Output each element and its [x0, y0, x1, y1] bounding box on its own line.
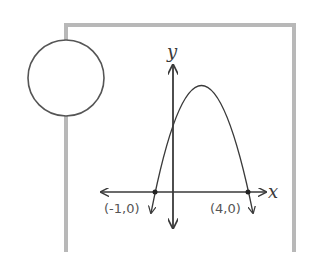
- point-right-intercept: [246, 190, 251, 195]
- x-axis-label: x: [268, 181, 278, 202]
- parabola-curve: [151, 86, 253, 214]
- point-label-right: (4,0): [210, 201, 241, 216]
- circle-shape: [28, 40, 104, 116]
- y-axis-label: y: [166, 41, 178, 62]
- parabola-diagram: y x (-1,0) (4,0): [0, 0, 311, 253]
- point-label-left: (-1,0): [104, 201, 140, 216]
- frame-border: [66, 25, 294, 252]
- point-left-intercept: [153, 190, 158, 195]
